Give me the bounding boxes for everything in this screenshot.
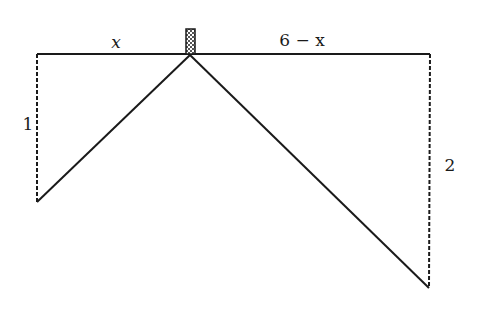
label-left-height: 1 bbox=[23, 114, 34, 134]
right-diagonal-line bbox=[190, 55, 429, 288]
label-six-minus-x: 6 − x bbox=[279, 30, 325, 50]
right-height-dashed-line bbox=[429, 54, 430, 288]
diagram-canvas: x 6 − x 1 2 bbox=[0, 0, 479, 312]
label-right-height: 2 bbox=[445, 155, 456, 175]
left-diagonal-line bbox=[37, 55, 190, 202]
label-x: x bbox=[111, 32, 121, 52]
apex-marker-box bbox=[186, 29, 195, 54]
